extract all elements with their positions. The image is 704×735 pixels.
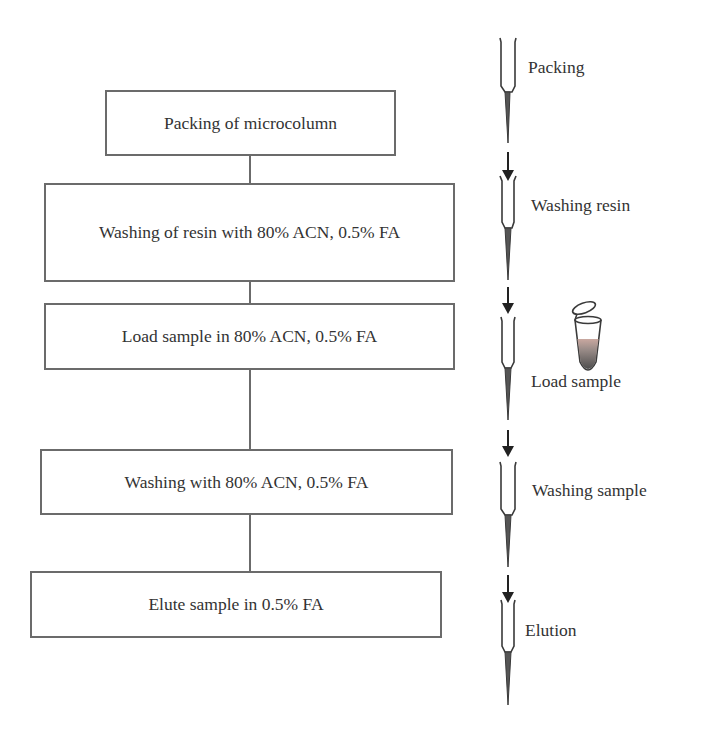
sample-tube-icon — [571, 299, 601, 370]
stage-label-washing-sample: Washing sample — [532, 480, 647, 501]
stage-label-packing: Packing — [528, 57, 584, 78]
arrow-down-icon — [502, 152, 514, 181]
pipette-tip-icon — [501, 600, 515, 705]
arrow-down-icon — [502, 430, 514, 457]
pipette-tip-icon — [501, 317, 515, 420]
pipette-tip-icon — [500, 176, 516, 280]
pipette-illustration — [0, 0, 704, 735]
stage-label-load-sample: Load sample — [531, 371, 621, 392]
arrow-down-icon — [502, 575, 514, 603]
stage-label-washing-resin: Washing resin — [531, 195, 630, 216]
stage-label-elution: Elution — [525, 620, 577, 641]
pipette-tip-icon — [500, 38, 516, 143]
pipette-tip-icon — [500, 462, 516, 567]
arrow-down-icon — [502, 287, 514, 314]
